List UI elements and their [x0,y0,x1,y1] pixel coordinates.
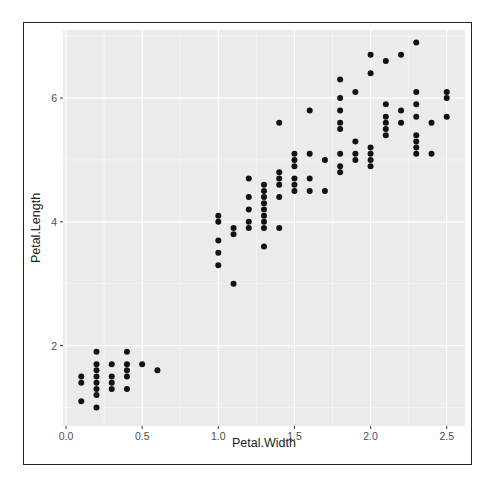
data-point [413,101,419,107]
data-point [337,107,343,113]
data-point [261,182,267,188]
y-axis-title: Petal.Length [29,193,43,263]
data-point [231,231,237,237]
data-point [261,219,267,225]
data-point [124,361,130,367]
data-point [307,151,313,157]
data-point [124,349,130,355]
data-point [352,138,358,144]
data-point [368,145,374,151]
data-point [215,250,221,256]
scatter-plot: 0.00.51.01.52.02.5 246 Petal.Width Petal… [0,0,492,489]
data-point [215,213,221,219]
data-point [276,182,282,188]
data-point [154,367,160,373]
x-tick-label: 2.5 [439,430,454,442]
data-point [109,361,115,367]
data-point [291,163,297,169]
data-point [337,120,343,126]
data-point [352,157,358,163]
data-point [94,349,100,355]
x-tick-label: 2.0 [363,430,378,442]
data-point [307,176,313,182]
data-point [124,374,130,380]
data-point [109,380,115,386]
data-point [261,200,267,206]
data-point [398,52,404,58]
data-point [444,95,450,101]
data-point [94,392,100,398]
data-point [291,188,297,194]
data-point [337,151,343,157]
data-point [398,107,404,113]
data-point [231,281,237,287]
data-point [246,225,252,231]
data-point [368,157,374,163]
data-point [352,89,358,95]
data-point [413,138,419,144]
data-point [261,225,267,231]
data-point [413,151,419,157]
data-point [413,39,419,45]
data-point [231,225,237,231]
data-point [276,176,282,182]
data-point [307,107,313,113]
y-tick-label: 2 [51,340,57,352]
data-point [94,380,100,386]
data-point [261,244,267,250]
data-point [261,194,267,200]
data-point [413,114,419,120]
data-point [276,225,282,231]
y-tick-label: 4 [51,216,57,228]
data-point [246,219,252,225]
data-point [276,194,282,200]
data-point [276,169,282,175]
data-point [444,114,450,120]
data-point [368,70,374,76]
data-point [139,361,145,367]
data-point [383,114,389,120]
data-point [322,188,328,194]
data-point [261,213,267,219]
y-axis-ticks: 246 [51,92,63,352]
data-point [337,163,343,169]
data-point [337,126,343,132]
data-point [291,176,297,182]
data-point [413,145,419,151]
data-point [109,374,115,380]
data-point [429,151,435,157]
data-point [94,367,100,373]
data-point [383,101,389,107]
data-point [94,361,100,367]
data-point [78,380,84,386]
data-point [261,188,267,194]
data-point [322,157,328,163]
data-point [429,120,435,126]
data-point [215,237,221,243]
data-point [94,404,100,410]
data-point [444,89,450,95]
data-point [124,386,130,392]
data-point [215,262,221,268]
data-point [94,386,100,392]
data-point [246,176,252,182]
x-axis-title: Petal.Width [232,436,296,450]
data-point [215,219,221,225]
data-point [291,151,297,157]
data-point [78,398,84,404]
data-point [337,95,343,101]
data-point [398,120,404,126]
data-point [352,151,358,157]
data-point [413,89,419,95]
data-point [261,206,267,212]
data-point [246,194,252,200]
data-point [307,188,313,194]
data-point [368,52,374,58]
data-point [368,163,374,169]
data-point [78,374,84,380]
data-point [383,126,389,132]
data-point [413,132,419,138]
data-point [291,157,297,163]
data-point [109,386,115,392]
y-tick-label: 6 [51,92,57,104]
